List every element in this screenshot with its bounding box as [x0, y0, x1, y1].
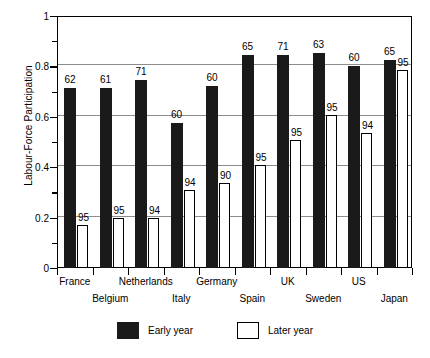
- bar-early-year: [64, 88, 76, 268]
- x-axis-category-label: Germany: [196, 276, 237, 287]
- x-tick: [341, 268, 342, 275]
- bar-later-year: [397, 70, 408, 268]
- x-axis-category-label: Sweden: [305, 293, 341, 304]
- bar-value-label: 90: [220, 171, 231, 181]
- x-axis-ticks: [57, 268, 412, 275]
- x-axis-category-label: Italy: [172, 293, 190, 304]
- bar-early-year: [384, 60, 396, 268]
- bar-value-label: 71: [277, 42, 288, 52]
- y-tick-major: [50, 66, 57, 67]
- y-tick-label: 0.6: [35, 111, 49, 122]
- bar-early-year: [348, 66, 360, 268]
- x-axis-category-label: Netherlands: [119, 276, 173, 287]
- x-axis-category-label: US: [352, 276, 366, 287]
- x-tick: [377, 268, 378, 275]
- x-tick: [164, 268, 165, 275]
- bar-later-year: [361, 133, 372, 268]
- bar-early-year: [135, 80, 147, 268]
- x-tick: [57, 268, 58, 275]
- x-tick: [93, 268, 94, 275]
- bar-group: 6090: [199, 16, 235, 268]
- y-tick-major: [50, 167, 57, 168]
- legend-label: Early year: [148, 325, 193, 336]
- y-tick-label: 1: [43, 11, 49, 22]
- y-tick-major: [50, 117, 57, 118]
- chart-legend: Early yearLater year: [0, 322, 430, 339]
- bar-early-year: [171, 123, 183, 268]
- x-axis-labels: FranceBelgiumNetherlandsItalyGermanySpai…: [0, 276, 430, 316]
- bar-early-year: [242, 55, 254, 268]
- bar-group: 6395: [306, 16, 342, 268]
- bar-value-label: 62: [64, 75, 75, 85]
- bar-later-year: [255, 165, 266, 268]
- bar-value-label: 63: [313, 40, 324, 50]
- bar-value-label: 60: [171, 110, 182, 120]
- bar-later-year: [113, 218, 124, 268]
- x-tick: [412, 268, 413, 275]
- bar-group: 6195: [93, 16, 129, 268]
- bar-group: 6094: [164, 16, 200, 268]
- bar-later-year: [184, 190, 195, 268]
- labour-force-participation-chart: Labour-Force Participation 00.20.40.60.8…: [0, 0, 430, 358]
- x-tick: [128, 268, 129, 275]
- bar-value-label: 94: [149, 206, 160, 216]
- bar-value-label: 95: [291, 128, 302, 138]
- bar-value-label: 61: [100, 75, 111, 85]
- bar-group: 6295: [57, 16, 93, 268]
- y-tick-label: 0.4: [35, 162, 49, 173]
- bar-group: 6094: [341, 16, 377, 268]
- y-tick-major: [50, 268, 57, 269]
- y-tick-label: 0.2: [35, 212, 49, 223]
- y-tick-major: [50, 16, 57, 17]
- x-axis-category-label: France: [59, 276, 90, 287]
- bar-group: 7195: [270, 16, 306, 268]
- y-axis-title: Labour-Force Participation: [23, 36, 34, 216]
- bar-later-year: [290, 140, 301, 268]
- y-tick-major: [50, 218, 57, 219]
- bar-value-label: 94: [185, 178, 196, 188]
- bar-early-year: [277, 55, 289, 268]
- legend-swatch-early: [117, 322, 139, 339]
- bar-early-year: [313, 53, 325, 268]
- bar-group: 7194: [128, 16, 164, 268]
- bar-value-label: 60: [206, 73, 217, 83]
- bar-value-label: 95: [114, 206, 125, 216]
- bar-value-label: 94: [362, 121, 373, 131]
- x-axis-category-label: Japan: [381, 293, 408, 304]
- bar-value-label: 95: [256, 153, 267, 163]
- bar-later-year: [77, 225, 88, 268]
- x-axis-category-label: UK: [281, 276, 295, 287]
- bar-early-year: [206, 86, 218, 268]
- bar-group: 6595: [377, 16, 413, 268]
- x-axis-category-label: Belgium: [92, 293, 128, 304]
- bar-value-label: 65: [384, 47, 395, 57]
- x-tick: [270, 268, 271, 275]
- x-axis-category-label: Spain: [239, 293, 265, 304]
- bar-groups: 6295619571946094609065957195639560946595: [57, 16, 412, 268]
- bar-value-label: 95: [78, 213, 89, 223]
- y-tick-label: 0.8: [35, 61, 49, 72]
- legend-item: Early year: [117, 322, 193, 339]
- bar-value-label: 71: [135, 67, 146, 77]
- bar-value-label: 95: [327, 103, 338, 113]
- bar-later-year: [326, 115, 337, 268]
- bar-value-label: 95: [398, 58, 409, 68]
- legend-swatch-later: [237, 322, 259, 339]
- x-tick: [199, 268, 200, 275]
- bar-early-year: [100, 88, 112, 268]
- bar-later-year: [219, 183, 230, 268]
- bar-value-label: 65: [242, 42, 253, 52]
- x-tick: [306, 268, 307, 275]
- x-tick: [235, 268, 236, 275]
- bar-later-year: [148, 218, 159, 268]
- legend-label: Later year: [268, 325, 313, 336]
- bar-group: 6595: [235, 16, 271, 268]
- legend-item: Later year: [237, 322, 313, 339]
- y-tick-label: 0: [43, 263, 49, 274]
- bar-value-label: 60: [348, 53, 359, 63]
